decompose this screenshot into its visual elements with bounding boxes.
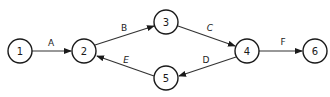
node-label: 3	[163, 17, 169, 28]
edge-label-a: A	[48, 38, 55, 48]
edge-f: F	[259, 37, 302, 51]
node-6: 6	[303, 39, 327, 63]
edge-d: D	[179, 55, 236, 76]
node-2: 2	[72, 39, 96, 63]
edge-label-e: E	[123, 55, 129, 65]
node-label: 6	[312, 46, 318, 57]
node-5: 5	[154, 66, 178, 90]
edge-label-d: D	[203, 55, 210, 65]
node-label: 5	[163, 73, 169, 84]
edge-b: B	[95, 23, 154, 45]
edge-label-b: B	[121, 23, 127, 33]
network-diagram: A B C D E F 1 2 3 4 5 6	[0, 0, 330, 97]
edge-a: A	[32, 38, 71, 51]
node-4: 4	[235, 39, 259, 63]
edge-c: C	[178, 23, 235, 46]
edge-e: E	[97, 55, 154, 76]
node-label: 1	[17, 46, 23, 57]
edge-label-f: F	[280, 37, 285, 47]
node-3: 3	[154, 10, 178, 34]
edge-label-c: C	[207, 23, 214, 33]
node-1: 1	[8, 39, 32, 63]
node-label: 4	[244, 46, 250, 57]
node-label: 2	[81, 46, 87, 57]
